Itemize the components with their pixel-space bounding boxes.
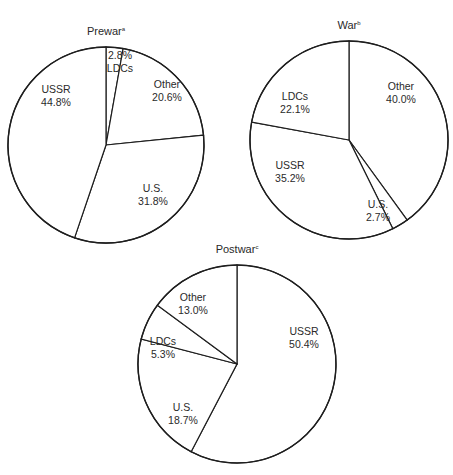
war-title: Warb [337, 19, 361, 31]
footnote-marker: c [255, 244, 258, 250]
pie-charts-figure: Prewara2.8%LDCsOther20.6%U.S.31.8%USSR44… [0, 0, 453, 475]
postwar-pie-chart: PostwarcUSSR50.4%U.S.18.7%LDCs5.3%Other1… [138, 243, 336, 463]
slice-label-us: U.S.2.7% [366, 198, 390, 223]
war-pie-chart: WarbOther40.0%U.S.2.7%USSR35.2%LDCs22.1% [250, 19, 448, 239]
slice-label-other: Other13.0% [178, 291, 208, 316]
footnote-marker: b [357, 20, 361, 26]
postwar-title: Postwarc [216, 243, 259, 255]
slice-label-ussr: USSR44.8% [41, 83, 71, 108]
slice-label-other: Other20.6% [152, 78, 182, 103]
slice-label-ldcs: LDCs5.3% [150, 335, 176, 360]
slice-label-ldcs: 2.8%LDCs [107, 49, 133, 74]
prewar-title: Prewara [87, 25, 126, 37]
slice-label-ussr: USSR35.2% [275, 159, 305, 184]
prewar-pie-chart: Prewara2.8%LDCsOther20.6%U.S.31.8%USSR44… [8, 25, 204, 243]
footnote-marker: a [122, 26, 126, 32]
slice-label-ussr: USSR50.4% [289, 325, 319, 350]
slice-label-ldcs: LDCs22.1% [280, 90, 310, 115]
slice-label-other: Other40.0% [386, 80, 416, 105]
